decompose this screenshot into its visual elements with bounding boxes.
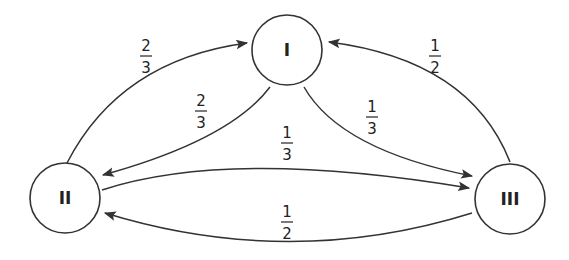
markov-diagram: I II III 2 3 2 3 1 3 1 3 1 2 1 2 xyxy=(0,0,569,260)
node-II-label: II xyxy=(59,188,72,208)
edge-II-to-III xyxy=(102,168,469,190)
fraction-numerator: 2 xyxy=(196,92,206,110)
fraction-denominator: 3 xyxy=(196,114,206,132)
edge-I-to-II xyxy=(103,87,270,175)
fraction-numerator: 1 xyxy=(282,203,292,221)
fraction-numerator: 2 xyxy=(141,37,151,55)
node-I-label: I xyxy=(284,40,290,60)
fraction-numerator: 1 xyxy=(282,124,292,142)
node-I: I xyxy=(252,15,322,85)
edge-I-to-III xyxy=(304,87,472,176)
fraction-denominator: 3 xyxy=(282,146,292,164)
fraction-denominator: 3 xyxy=(141,59,151,77)
fraction-denominator: 3 xyxy=(367,120,377,138)
node-II: II xyxy=(30,163,100,233)
edge-label-III-to-I: 1 2 xyxy=(429,37,441,77)
fraction-numerator: 1 xyxy=(367,98,377,116)
edge-II-to-I xyxy=(67,43,247,163)
fraction-numerator: 1 xyxy=(430,37,440,55)
edge-label-I-to-II: 2 3 xyxy=(195,92,207,132)
edge-label-II-to-III: 1 3 xyxy=(281,124,293,164)
node-III: III xyxy=(475,164,545,234)
edge-label-I-to-III: 1 3 xyxy=(366,98,378,138)
edge-III-to-I xyxy=(329,42,510,162)
edge-label-II-to-I: 2 3 xyxy=(140,37,152,77)
fraction-denominator: 2 xyxy=(430,59,440,77)
fraction-denominator: 2 xyxy=(282,225,292,243)
edge-label-III-to-II: 1 2 xyxy=(281,203,293,243)
node-III-label: III xyxy=(501,189,520,209)
